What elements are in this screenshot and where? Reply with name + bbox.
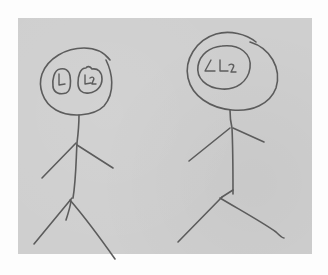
- left-figure-leg-right: [70, 200, 115, 259]
- left-figure-arm-left: [42, 143, 76, 178]
- left-figure-right-eye: [78, 67, 102, 94]
- right-stick-figure: [178, 32, 284, 242]
- right-figure-arm-right: [233, 128, 264, 142]
- left-stick-figure: [34, 48, 115, 259]
- right-figure-neck-torso: [230, 110, 233, 194]
- right-figure-leg-right: [220, 198, 284, 238]
- left-figure-leg-left: [34, 198, 72, 244]
- left-eye-letter-L: [59, 74, 65, 85]
- right-head-letters-LL2: [205, 60, 236, 72]
- right-figure-inner-circle: [198, 46, 250, 89]
- right-figure-leg-left: [178, 197, 222, 242]
- left-figure-neck-torso: [73, 115, 79, 198]
- left-figure-arm-right: [77, 145, 113, 168]
- right-eye-letter-L2: [85, 75, 96, 84]
- right-figure-hip-stroke: [222, 190, 233, 197]
- right-figure-arm-left: [189, 128, 230, 161]
- photo-background: Photograph of a hand-drawn sketch on gra…: [0, 0, 328, 275]
- stick-figure-drawing: [0, 0, 328, 275]
- left-figure-left-eye: [53, 69, 71, 94]
